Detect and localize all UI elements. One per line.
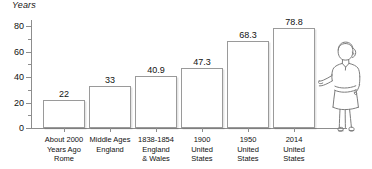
- x-tick: [294, 128, 295, 132]
- y-tick-minor: [28, 115, 32, 116]
- y-tick-major: [26, 128, 32, 129]
- bar: [227, 41, 269, 128]
- y-tick-minor: [28, 90, 32, 91]
- bar-value-label: 33: [89, 75, 131, 85]
- y-tick-label: 80: [2, 21, 24, 31]
- y-tick-major: [26, 77, 32, 78]
- y-tick-label: 60: [2, 47, 24, 57]
- bar: [181, 68, 223, 128]
- category-label: 1900UnitedStates: [179, 135, 225, 164]
- category-label: About 2000Years AgoRome: [41, 135, 87, 164]
- category-label: 1838-1854England& Wales: [133, 135, 179, 164]
- x-tick: [110, 128, 111, 132]
- bar-chart: Years 020406080 223340.947.368.378.8 Abo…: [0, 0, 372, 169]
- y-tick-minor: [28, 39, 32, 40]
- category-label: 2014UnitedStates: [271, 135, 317, 164]
- y-axis-line: [31, 20, 32, 129]
- y-tick-minor: [28, 64, 32, 65]
- bar: [43, 100, 85, 128]
- x-tick: [156, 128, 157, 132]
- x-axis-line: [31, 128, 347, 129]
- x-tick: [202, 128, 203, 132]
- y-tick-label: 0: [2, 123, 24, 133]
- x-tick: [64, 128, 65, 132]
- bar-value-label: 40.9: [135, 65, 177, 75]
- bar: [89, 86, 131, 128]
- bar-value-label: 78.8: [273, 17, 315, 27]
- bar-value-label: 22: [43, 89, 85, 99]
- x-tick: [248, 128, 249, 132]
- y-tick-major: [26, 52, 32, 53]
- bar: [273, 28, 315, 128]
- bar-value-label: 68.3: [227, 30, 269, 40]
- category-label: Middle AgesEngland: [87, 135, 133, 154]
- bar: [135, 76, 177, 128]
- y-tick-major: [26, 103, 32, 104]
- y-tick-label: 20: [2, 98, 24, 108]
- bar-value-label: 47.3: [181, 57, 223, 67]
- y-axis-labels: 020406080: [0, 0, 24, 169]
- y-tick-label: 40: [2, 72, 24, 82]
- category-label: 1950UnitedStates: [225, 135, 271, 164]
- standing-woman-illustration: [318, 28, 372, 140]
- y-tick-major: [26, 26, 32, 27]
